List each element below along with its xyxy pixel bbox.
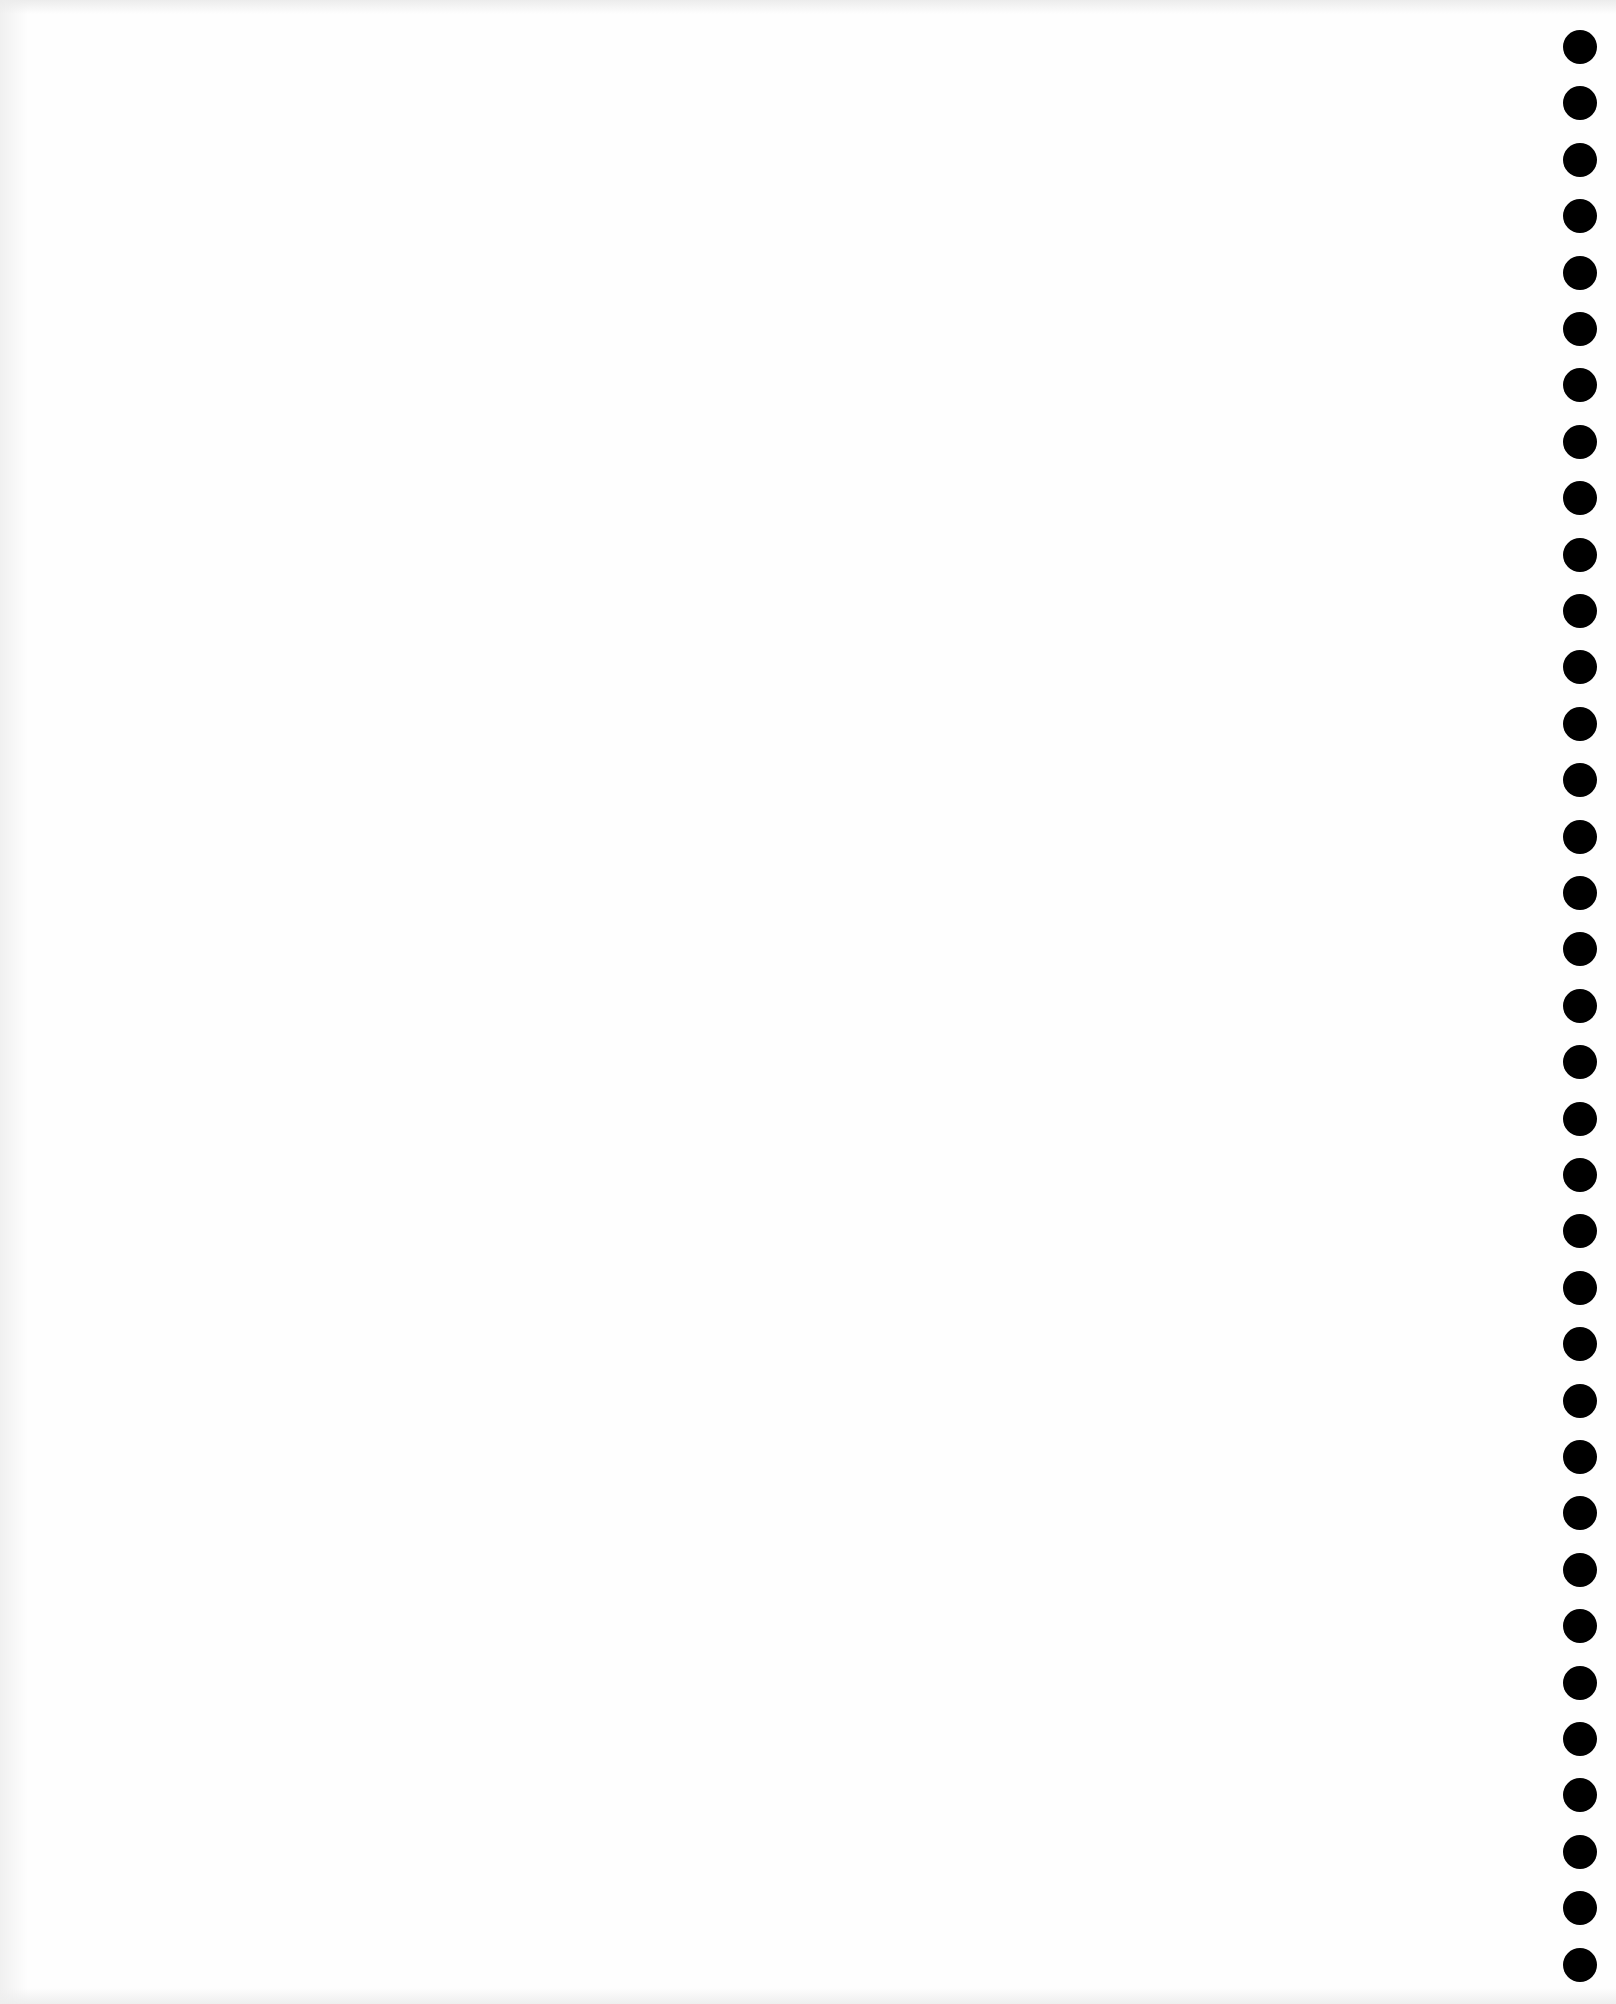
binding-hole: [1563, 1440, 1597, 1474]
binding-hole: [1563, 425, 1597, 459]
binding-hole: [1563, 312, 1597, 346]
binding-hole: [1563, 1384, 1597, 1418]
binding-hole: [1563, 1496, 1597, 1530]
binding-hole: [1563, 763, 1597, 797]
binding-hole: [1563, 1891, 1597, 1925]
binding-hole: [1563, 594, 1597, 628]
binding-hole: [1563, 1722, 1597, 1756]
binding-hole: [1563, 932, 1597, 966]
binding-hole: [1563, 256, 1597, 290]
binding-hole: [1563, 481, 1597, 515]
binding-hole: [1563, 1045, 1597, 1079]
binding-hole: [1563, 707, 1597, 741]
blank-writing-area: [30, 20, 1530, 1980]
page-top-edge-shadow: [0, 0, 1616, 14]
binding-hole: [1563, 1271, 1597, 1305]
binding-hole: [1563, 1327, 1597, 1361]
binding-hole: [1563, 1666, 1597, 1700]
binding-hole: [1563, 368, 1597, 402]
binding-hole: [1563, 1553, 1597, 1587]
binding-hole: [1563, 820, 1597, 854]
notebook-page: [0, 0, 1616, 2004]
page-bottom-edge-shadow: [0, 1988, 1616, 2004]
binding-hole: [1563, 538, 1597, 572]
binding-hole: [1563, 30, 1597, 64]
binding-hole: [1563, 1835, 1597, 1869]
binding-hole: [1563, 989, 1597, 1023]
page-left-edge-shadow: [0, 0, 28, 2004]
binding-hole: [1563, 1214, 1597, 1248]
binding-hole: [1563, 1158, 1597, 1192]
binding-hole: [1563, 1102, 1597, 1136]
binding-hole: [1563, 199, 1597, 233]
binding-hole: [1563, 1609, 1597, 1643]
binding-hole: [1563, 876, 1597, 910]
spiral-binding-holes: [1560, 0, 1600, 2004]
binding-hole: [1563, 650, 1597, 684]
binding-hole: [1563, 1778, 1597, 1812]
binding-hole: [1563, 86, 1597, 120]
binding-hole: [1563, 1948, 1597, 1982]
binding-hole: [1563, 143, 1597, 177]
